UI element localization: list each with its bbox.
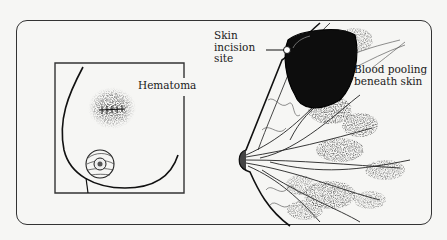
hematoma-spot [88, 87, 136, 129]
blood-pooling-line-1: Blood pooling [354, 64, 427, 76]
blood-pooling-label: Blood pooling beneath skin [354, 64, 427, 87]
hematoma-label: Hematoma [136, 80, 198, 92]
blood-pooling-line-2: beneath skin [354, 76, 427, 88]
blood-pool [285, 30, 357, 108]
areola [86, 150, 114, 178]
nipple [239, 150, 246, 170]
skin-incision-line-3: site [214, 53, 255, 65]
skin-incision-label: Skin incision site [214, 30, 255, 65]
side-view-panel [239, 23, 410, 226]
incision-marker [284, 47, 291, 54]
skin-incision-line-1: Skin [214, 30, 255, 42]
